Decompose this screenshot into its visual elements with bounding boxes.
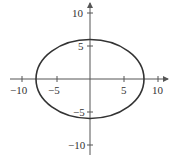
x-tick-label: −5: [48, 84, 60, 96]
y-tick-label: −10: [68, 139, 86, 151]
y-tick-label: −5: [73, 106, 85, 118]
ellipse-chart: −10 −5 5 10 10 5 −5 −10: [0, 0, 173, 157]
x-tick-label: 5: [121, 84, 127, 96]
x-tick-label: −10: [10, 84, 28, 96]
y-tick-label: 10: [72, 7, 84, 19]
x-tick-label: 10: [152, 84, 164, 96]
y-tick-label: 5: [78, 40, 84, 52]
